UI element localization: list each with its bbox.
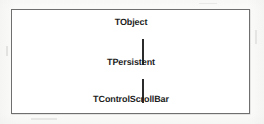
node-label-tobject: TObject <box>115 17 148 27</box>
scan-artifact <box>31 118 57 120</box>
node-label-tpersistent: TPersistent <box>107 57 155 67</box>
scan-artifact <box>199 3 217 4</box>
figure-page: TObject TPersistent TControlScrollBar <box>0 0 264 124</box>
scan-artifact <box>255 30 257 44</box>
node-label-tcontrolscrollbar: TControlScrollBar <box>93 94 169 104</box>
scan-artifact <box>6 46 8 56</box>
